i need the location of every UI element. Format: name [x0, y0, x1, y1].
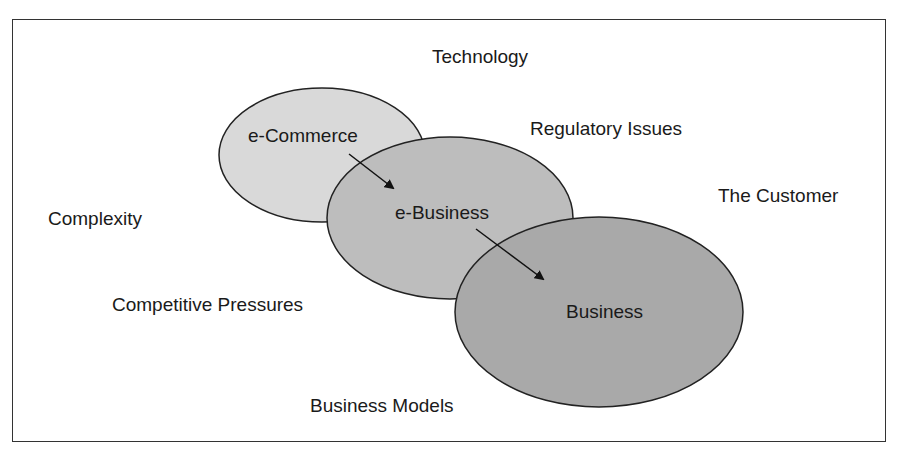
factor-business-models: Business Models: [310, 395, 454, 417]
factor-regulatory-issues: Regulatory Issues: [530, 118, 682, 140]
factor-competitive-pressures: Competitive Pressures: [112, 294, 303, 316]
business-label: Business: [566, 301, 643, 323]
factor-complexity: Complexity: [48, 208, 142, 230]
factor-the-customer: The Customer: [718, 185, 838, 207]
factor-technology: Technology: [432, 46, 528, 68]
ecommerce-label: e-Commerce: [248, 125, 358, 147]
ebusiness-label: e-Business: [395, 202, 489, 224]
